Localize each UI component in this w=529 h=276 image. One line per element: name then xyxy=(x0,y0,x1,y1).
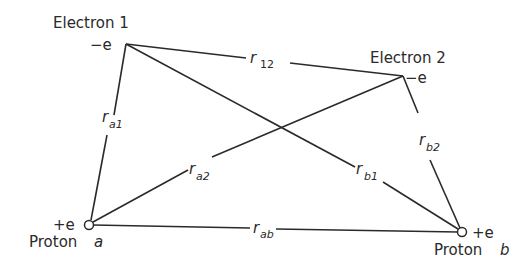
edge-rb1-b xyxy=(383,182,458,229)
edge-rb2-b xyxy=(430,160,460,228)
proton-b-name: Proton xyxy=(434,241,482,259)
edge-r12-a xyxy=(126,44,246,58)
svg-text:r: r xyxy=(253,219,260,237)
proton-a-name: Proton xyxy=(29,233,77,251)
proton-a-charge: +e xyxy=(53,216,75,234)
svg-text:a2: a2 xyxy=(196,170,210,183)
edge-ra2-a xyxy=(93,170,188,222)
electron1-name: Electron 1 xyxy=(53,14,129,32)
edge-rab-a xyxy=(93,225,250,228)
svg-text:ab: ab xyxy=(260,228,274,241)
svg-text:r: r xyxy=(189,160,196,178)
label-rab: r ab xyxy=(253,219,274,241)
edge-ra1-b xyxy=(91,135,107,220)
label-r12: r 12 xyxy=(250,49,274,71)
svg-text:b2: b2 xyxy=(426,141,440,154)
svg-text:r: r xyxy=(419,131,426,149)
svg-text:a1: a1 xyxy=(109,118,123,131)
label-rb1: r b1 xyxy=(356,160,378,183)
electron1-charge: −e xyxy=(90,36,112,54)
svg-text:r: r xyxy=(250,49,257,67)
proton-b-letter: b xyxy=(500,241,510,259)
label-rb2: r b2 xyxy=(419,131,440,154)
edge-rb1-a xyxy=(126,44,355,167)
edge-rab-b xyxy=(276,229,458,232)
edge-ra2-b xyxy=(212,76,403,157)
svg-text:r: r xyxy=(356,160,363,178)
label-ra2: r a2 xyxy=(189,160,210,183)
proton-b-marker-icon xyxy=(458,228,467,237)
proton-b-charge: +e xyxy=(472,224,494,242)
electron2-charge: −e xyxy=(405,69,427,87)
label-ra1: r a1 xyxy=(102,108,123,131)
svg-text:12: 12 xyxy=(260,58,274,71)
edge-ra1-a xyxy=(114,44,126,115)
svg-text:b1: b1 xyxy=(364,170,378,183)
proton-a-letter: a xyxy=(94,233,103,251)
electron2-name: Electron 2 xyxy=(370,49,446,67)
diagram-canvas: Electron 1 −e Electron 2 −e +e Proton a … xyxy=(0,0,529,276)
svg-text:r: r xyxy=(102,108,109,126)
proton-a-marker-icon xyxy=(85,221,94,230)
